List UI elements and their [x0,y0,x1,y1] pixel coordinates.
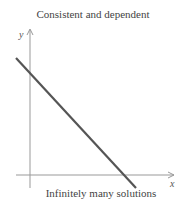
y-axis-label: y [18,29,24,40]
coordinate-plane: y x [0,0,186,215]
diagram-caption: Infinitely many solutions [0,187,186,199]
dependent-line [16,58,136,188]
